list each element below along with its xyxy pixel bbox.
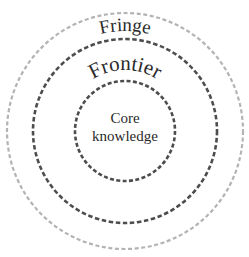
knowledge-concentric-diagram: Fringe Frontier Core knowledge <box>0 0 249 257</box>
core-label-line-2: knowledge <box>92 128 158 144</box>
fringe-label: Fringe <box>97 14 153 38</box>
core-ring: Core knowledge <box>75 81 175 181</box>
frontier-label: Frontier <box>84 51 166 84</box>
core-label-line-1: Core <box>110 110 140 126</box>
